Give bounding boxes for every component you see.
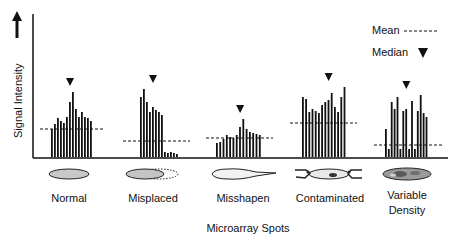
median-triangle-icon <box>66 78 74 86</box>
histogram-bar <box>63 123 65 157</box>
spot-misshapen-icon <box>212 169 276 179</box>
legend-median-label: Median <box>372 46 408 58</box>
median-triangle-icon <box>402 81 410 89</box>
median-triangle-icon <box>325 73 333 81</box>
spot-label-normal: Normal <box>51 192 86 204</box>
histogram-bar <box>328 100 330 157</box>
histogram-bar <box>229 137 231 157</box>
histogram-bar <box>402 111 404 157</box>
histogram-bar <box>223 139 225 157</box>
histogram-bar <box>239 127 241 157</box>
histogram-misplaced <box>123 75 190 157</box>
histogram-bar <box>408 149 410 157</box>
spot-misplaced-icon <box>126 169 178 179</box>
spot-label-contaminated: Contaminated <box>296 192 365 204</box>
spot-normal-icon <box>49 169 89 179</box>
histogram-bar <box>321 105 323 157</box>
histogram-bar <box>81 112 83 157</box>
histogram-bar <box>149 112 151 157</box>
histogram-bar <box>391 102 393 157</box>
histogram-variable-density <box>374 81 442 157</box>
histogram-bar <box>334 107 336 157</box>
histogram-contaminated <box>290 73 357 157</box>
histogram-bar <box>340 97 342 157</box>
histogram-bar <box>308 112 310 157</box>
histogram-bar <box>397 97 399 157</box>
histogram-bar <box>87 118 89 157</box>
histogram-bar <box>331 93 333 157</box>
histogram-bar <box>72 92 74 157</box>
histogram-bar <box>90 121 92 157</box>
x-axis-label: Microarray Spots <box>206 222 290 234</box>
histogram-bar <box>233 138 235 157</box>
histogram-bar <box>252 133 254 157</box>
histogram-bar <box>411 101 413 157</box>
histogram-bar <box>394 109 396 157</box>
histogram-bar <box>66 117 68 157</box>
legend-mean-label: Mean <box>372 24 400 36</box>
median-triangle-icon <box>236 105 244 113</box>
histogram-bar <box>256 134 258 157</box>
histogram-bar <box>344 87 346 157</box>
histogram-bar <box>259 135 261 157</box>
histogram-bar <box>152 107 154 157</box>
histogram-bar <box>249 132 251 157</box>
legend-median-triangle-icon <box>418 48 428 58</box>
histogram-bar <box>302 97 304 157</box>
histogram-bar <box>400 149 402 157</box>
histogram-bar <box>305 99 307 157</box>
histogram-bar <box>423 113 425 157</box>
histogram-bar <box>75 109 77 157</box>
histogram-misshapen <box>206 105 273 157</box>
histogram-bar <box>78 117 80 157</box>
histogram-bar <box>170 152 172 157</box>
histograms <box>40 73 442 157</box>
histogram-bar <box>57 118 59 157</box>
median-triangle-icon <box>149 75 157 83</box>
histogram-bar <box>167 153 169 157</box>
histogram-bar <box>146 102 148 157</box>
histogram-bar <box>161 115 163 157</box>
histogram-bar <box>312 109 314 157</box>
histogram-bar <box>158 112 160 157</box>
histogram-bar <box>60 121 62 157</box>
spot-contaminated-icon <box>295 169 362 179</box>
histogram-bar <box>417 111 419 157</box>
spot-label-misshapen: Misshapen <box>216 192 269 204</box>
histogram-bar <box>318 113 320 157</box>
spot-label-density: Density <box>389 204 426 216</box>
spot-label-misplaced: Misplaced <box>128 192 178 204</box>
y-axis-label: Signal Intensity <box>12 63 24 138</box>
histogram-bar <box>51 129 53 157</box>
histogram-bar <box>405 109 407 157</box>
histogram-normal <box>40 78 104 157</box>
up-arrow-icon <box>12 11 22 38</box>
histogram-bar <box>324 102 326 157</box>
spot-variable-density-icon <box>383 168 431 180</box>
histogram-bar <box>315 111 317 157</box>
diagram-canvas: Signal Intensity Mean Median Normal Misp… <box>0 0 455 239</box>
histogram-bar <box>173 153 175 157</box>
histogram-bar <box>388 149 390 157</box>
histogram-bar <box>337 112 339 157</box>
histogram-bar <box>176 154 178 157</box>
histogram-bar <box>84 117 86 157</box>
histogram-bar <box>155 110 157 157</box>
histogram-bar <box>385 129 387 157</box>
spot-label-variable: Variable <box>387 189 427 201</box>
histogram-bar <box>216 143 218 157</box>
histogram-bar <box>140 97 142 157</box>
histogram-bar <box>164 152 166 157</box>
histogram-bar <box>219 142 221 157</box>
histogram-bar <box>414 149 416 157</box>
histogram-bar <box>143 89 145 157</box>
histogram-bar <box>420 95 422 157</box>
histogram-bar <box>426 117 428 157</box>
histogram-bar <box>246 129 248 157</box>
